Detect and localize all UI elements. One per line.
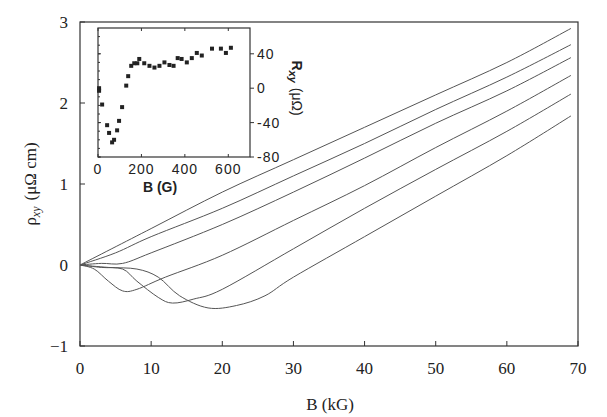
main-x-tick-label: 50: [427, 359, 444, 378]
main-x-tick-label: 70: [570, 359, 587, 378]
inset-y-tick-labels: -80-40040: [257, 46, 280, 165]
main-y-axis-label: ρxy(μΩ cm): [21, 142, 43, 225]
main-x-tick-label: 30: [285, 359, 302, 378]
inset-x-tick-label: 600: [215, 161, 241, 177]
inset-y-tick-label: 40: [257, 46, 275, 62]
inset-y-tick-label: 0: [257, 80, 266, 96]
inset-data-point: [162, 60, 166, 64]
inset-data-point: [180, 57, 184, 61]
inset-y-label-units: (μΩ): [289, 88, 305, 116]
main-y-tick-labels: −10123: [50, 13, 68, 356]
inset-x-tick-label: 200: [128, 161, 154, 177]
hall-resistivity-figure: 010203040506070 −10123 B (kG) ρxy(μΩ cm)…: [0, 0, 607, 417]
inset-x-tick-label: 0: [94, 161, 103, 177]
main-x-axis-label: B (kG): [306, 395, 354, 414]
svg-text:ρxy(μΩ cm): ρxy(μΩ cm): [21, 142, 43, 225]
inset-x-tick-label: 400: [172, 161, 198, 177]
inset-data-point: [97, 89, 101, 93]
inset-data-point: [142, 61, 146, 65]
inset-y-label-subscript: xy: [287, 70, 299, 84]
svg-text:Rxy(μΩ): Rxy(μΩ): [287, 60, 305, 115]
inset-data-point: [195, 51, 199, 55]
main-x-tick-labels: 010203040506070: [76, 359, 587, 378]
inset-data-point: [167, 63, 171, 67]
inset-data-point: [135, 61, 139, 65]
inset-y-label-symbol: R: [289, 60, 305, 70]
inset-data-point: [224, 51, 228, 55]
main-y-label-symbol: ρ: [21, 217, 40, 225]
inset-data-point: [115, 128, 119, 132]
inset-data-point: [147, 64, 151, 68]
inset-y-tick-label: -80: [257, 149, 280, 165]
main-y-tick-label: 3: [60, 13, 69, 32]
main-x-tick-label: 60: [498, 359, 515, 378]
inset-y-tick-label: -40: [257, 115, 280, 131]
inset-x-tick-labels: 0200400600: [94, 161, 242, 177]
inset-data-point: [120, 105, 124, 109]
main-x-tick-label: 0: [76, 359, 85, 378]
inset-data-point: [124, 84, 128, 88]
inset-data-point: [152, 66, 156, 70]
main-x-tick-label: 40: [356, 359, 373, 378]
main-y-tick-label: 0: [60, 256, 69, 275]
inset-data-point: [190, 56, 194, 60]
main-y-tick-label: 1: [60, 175, 69, 194]
main-y-tick-label: −1: [50, 337, 68, 356]
inset-data-point: [126, 74, 130, 78]
inset-data-point: [176, 56, 180, 60]
inset-data-point: [219, 47, 223, 51]
main-x-tick-label: 10: [143, 359, 160, 378]
inset-y-axis-label: Rxy(μΩ): [287, 60, 305, 115]
main-y-label-subscript: xy: [29, 206, 43, 218]
main-y-label-units: (μΩ cm): [21, 142, 40, 200]
main-x-tick-label: 20: [214, 359, 231, 378]
inset-data-point: [112, 138, 116, 142]
inset-data-point: [229, 46, 233, 50]
inset-data-point: [107, 131, 111, 135]
inset-data-point: [100, 103, 104, 107]
inset-data-point: [105, 123, 109, 127]
inset-data-point: [157, 64, 161, 68]
inset-data-point: [210, 47, 214, 51]
inset-data-point: [185, 60, 189, 64]
main-y-tick-label: 2: [60, 94, 69, 113]
inset-data-point: [117, 119, 121, 123]
inset-x-axis-label: B (G): [143, 179, 177, 195]
inset-data-point: [172, 64, 176, 68]
inset-data-point: [200, 54, 204, 58]
inset-data-point: [137, 57, 141, 61]
